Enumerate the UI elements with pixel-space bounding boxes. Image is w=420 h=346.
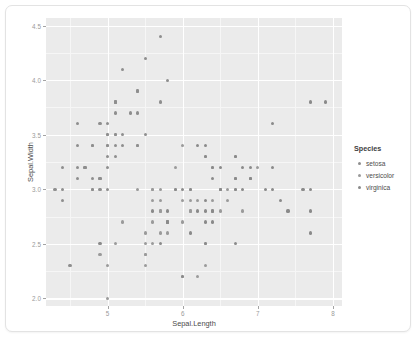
data-point: [98, 253, 101, 256]
data-point: [174, 166, 177, 169]
data-point: [234, 188, 237, 191]
data-point: [91, 177, 94, 180]
legend-title: Species: [354, 144, 412, 153]
data-point: [211, 220, 214, 223]
legend-key-icon: [354, 170, 365, 181]
gridline-vertical-minor: [145, 18, 146, 306]
x-tick-mark: [258, 306, 259, 309]
data-point: [234, 155, 237, 158]
gridline-vertical: [108, 18, 109, 306]
data-point: [279, 199, 282, 202]
data-point: [204, 155, 207, 158]
legend-item-versicolor[interactable]: versicolor: [354, 169, 412, 181]
gridline-horizontal: [46, 244, 342, 245]
data-point: [136, 111, 139, 114]
legend-item-virginica[interactable]: virginica: [354, 181, 412, 193]
gridline-vertical: [333, 18, 334, 306]
data-point: [271, 166, 274, 169]
x-tick-label: 5: [106, 310, 110, 317]
gridline-horizontal: [46, 298, 342, 299]
data-point: [189, 188, 192, 191]
data-point: [53, 188, 56, 191]
data-point: [196, 209, 199, 212]
data-point: [68, 264, 71, 267]
data-point: [166, 209, 169, 212]
data-point: [114, 111, 117, 114]
legend-dot-icon: [358, 186, 361, 189]
gridline-vertical-minor: [220, 18, 221, 306]
y-tick-label: 2.0: [32, 295, 41, 302]
data-point: [136, 144, 139, 147]
gridline-horizontal-minor: [46, 107, 342, 108]
data-point: [159, 199, 162, 202]
data-point: [121, 220, 124, 223]
data-point: [83, 166, 86, 169]
gridline-vertical: [258, 18, 259, 306]
y-tick-label: 4.5: [32, 22, 41, 29]
legend-item-label: virginica: [366, 184, 390, 191]
plot-panel: [46, 18, 342, 306]
legend-items: setosaversicolorvirginica: [354, 157, 412, 193]
data-point: [324, 100, 327, 103]
data-point: [196, 144, 199, 147]
data-point: [211, 199, 214, 202]
data-point: [219, 209, 222, 212]
x-tick-label: 7: [256, 310, 260, 317]
data-point: [98, 188, 101, 191]
data-point: [61, 166, 64, 169]
data-point: [159, 100, 162, 103]
data-point: [76, 166, 79, 169]
data-point: [144, 253, 147, 256]
data-point: [286, 209, 289, 212]
gridline-horizontal-minor: [46, 162, 342, 163]
data-point: [309, 231, 312, 234]
data-point: [309, 209, 312, 212]
plot-card: Sepal.Width Sepal.Length 2.02.53.03.54.0…: [5, 5, 411, 332]
scatter-plot: Sepal.Width Sepal.Length 2.02.53.03.54.0…: [6, 6, 412, 333]
data-point: [151, 220, 154, 223]
data-point: [249, 166, 252, 169]
data-point: [234, 177, 237, 180]
data-point: [144, 57, 147, 60]
data-point: [76, 177, 79, 180]
gridline-vertical: [183, 18, 184, 306]
data-point: [159, 209, 162, 212]
y-tick-label: 3.5: [32, 131, 41, 138]
data-point: [271, 122, 274, 125]
data-point: [204, 220, 207, 223]
data-point: [301, 188, 304, 191]
legend-dot-icon: [358, 174, 361, 177]
x-tick-label: 6: [181, 310, 185, 317]
data-point: [121, 144, 124, 147]
legend-key-icon: [354, 182, 365, 193]
data-point: [226, 199, 229, 202]
data-point: [181, 220, 184, 223]
data-point: [166, 220, 169, 223]
data-point: [159, 231, 162, 234]
legend-item-setosa[interactable]: setosa: [354, 157, 412, 169]
data-point: [91, 144, 94, 147]
y-tick-label: 3.0: [32, 186, 41, 193]
data-point: [204, 144, 207, 147]
legend-dot-icon: [358, 162, 361, 165]
data-point: [76, 122, 79, 125]
data-point: [114, 144, 117, 147]
gridline-horizontal-minor: [46, 53, 342, 54]
data-point: [144, 231, 147, 234]
gridline-horizontal-minor: [46, 217, 342, 218]
data-point: [204, 199, 207, 202]
data-point: [159, 188, 162, 191]
legend: Species setosaversicolorvirginica: [354, 144, 412, 193]
data-point: [249, 177, 252, 180]
data-point: [98, 122, 101, 125]
gridline-vertical-minor: [70, 18, 71, 306]
data-point: [114, 100, 117, 103]
gridline-vertical-minor: [295, 18, 296, 306]
legend-item-label: setosa: [366, 160, 385, 167]
data-point: [241, 209, 244, 212]
y-tick-label: 4.0: [32, 77, 41, 84]
y-tick-label: 2.5: [32, 240, 41, 247]
x-axis-label: Sepal.Length: [46, 319, 342, 328]
data-point: [189, 209, 192, 212]
data-point: [211, 177, 214, 180]
